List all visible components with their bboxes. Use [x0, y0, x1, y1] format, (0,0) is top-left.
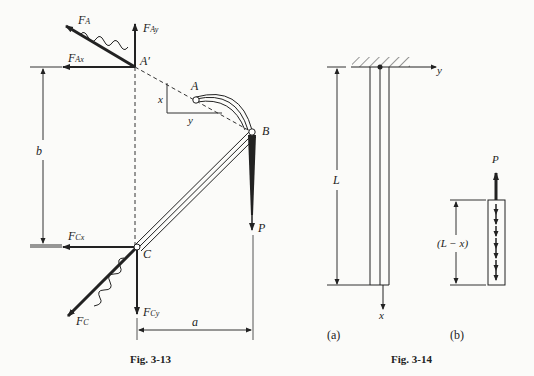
tag-a: (a) — [327, 328, 340, 342]
label-fcy: FCy — [142, 305, 160, 319]
pin-a — [193, 97, 199, 103]
label-fay: FAy — [142, 21, 159, 35]
rod-pin — [378, 65, 383, 70]
label-y-small: y — [187, 114, 193, 126]
label-b-point: B — [262, 124, 270, 138]
fig-3-13: b FAx FAy FA A′ x y A B P — [30, 13, 270, 365]
label-a-dim: a — [192, 315, 198, 329]
label-aprime: A′ — [139, 54, 150, 68]
label-x-axis: x — [378, 309, 384, 321]
label-c: C — [143, 247, 152, 261]
pin-c — [134, 244, 140, 250]
pin-b — [249, 129, 255, 135]
member-bc-3 — [141, 137, 256, 251]
label-l: L — [332, 173, 340, 187]
fc-wave — [94, 258, 124, 306]
figure-canvas: b FAx FAy FA A′ x y A B P — [0, 0, 534, 376]
label-l-minus-x: (L − x) — [437, 237, 468, 250]
label-x-small: x — [157, 93, 163, 105]
tag-b: (b) — [450, 328, 464, 342]
label-p-b: P — [491, 153, 499, 165]
label-b: b — [36, 144, 42, 158]
caption-fig-3-13: Fig. 3-13 — [130, 353, 171, 365]
label-y-axis: y — [436, 64, 442, 76]
label-fc: FC — [75, 314, 89, 328]
caption-fig-3-14: Fig. 3-14 — [391, 353, 432, 365]
label-fax: FAx — [67, 51, 84, 65]
label-fa: FA — [77, 13, 90, 27]
member-bc-2 — [138, 134, 253, 248]
label-a: A — [190, 79, 199, 93]
label-p: P — [257, 221, 266, 235]
force-fc-arrow — [68, 247, 137, 316]
fig-3-14: y x L (a) P (L − — [327, 57, 505, 365]
member-bc-1 — [135, 131, 250, 245]
label-fcx: FCx — [67, 229, 85, 243]
